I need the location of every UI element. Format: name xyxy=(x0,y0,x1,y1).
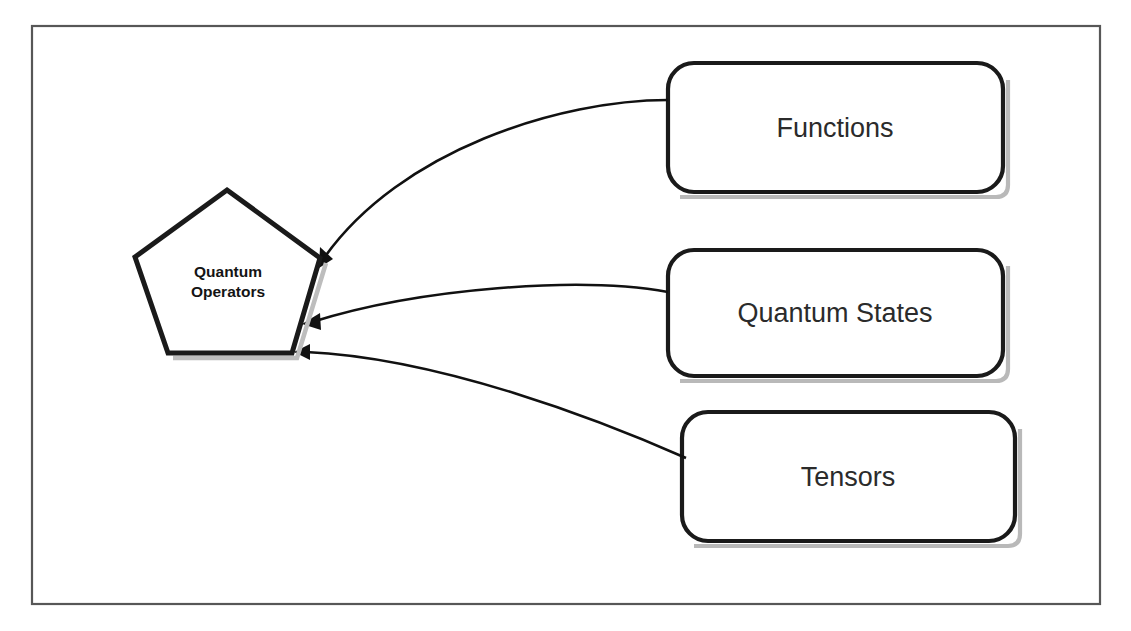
edge-quantum-states-line xyxy=(312,285,668,322)
quantum-operators-label-line2: Operators xyxy=(191,283,265,300)
node-quantum-states[interactable]: Quantum States xyxy=(668,250,1008,381)
edge-functions-to-operators xyxy=(319,100,668,268)
tensors-label: Tensors xyxy=(801,462,896,492)
functions-label: Functions xyxy=(776,113,893,143)
edge-functions-line xyxy=(324,100,668,258)
node-tensors[interactable]: Tensors xyxy=(682,412,1020,546)
quantum-states-label: Quantum States xyxy=(737,298,932,328)
edge-tensors-line xyxy=(306,352,686,458)
node-functions[interactable]: Functions xyxy=(668,63,1008,197)
quantum-operators-label-line1: Quantum xyxy=(194,263,262,280)
diagram-surface: Functions Quantum States Tensors xyxy=(0,0,1131,631)
node-quantum-operators[interactable]: Quantum Operators xyxy=(135,190,326,358)
diagram-canvas: Functions Quantum States Tensors xyxy=(0,0,1131,631)
edge-tensors-to-operators xyxy=(294,344,686,458)
edge-quantum-states-to-operators xyxy=(302,285,668,330)
